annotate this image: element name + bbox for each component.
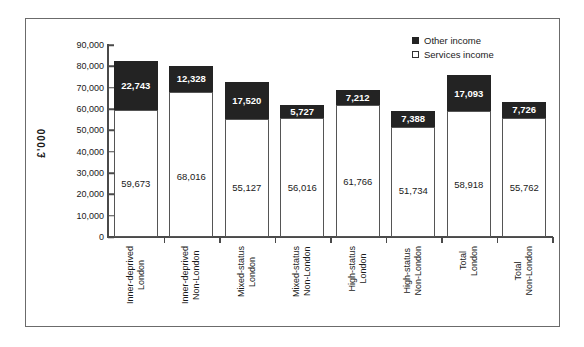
bar-value-label: 22,743 — [121, 80, 150, 91]
x-axis-tick-mark — [219, 237, 221, 243]
x-axis-category-label-text: High-statusNon-London — [402, 246, 424, 296]
legend-marker-filled-square-icon — [412, 37, 419, 44]
y-axis-tick-labels: 90,00080,00070,00060,00050,00040,00030,0… — [58, 45, 104, 237]
bar-value-label: 61,766 — [337, 176, 379, 187]
bar-segment-services-income: 55,127 — [225, 119, 269, 237]
plot-area: 59,67322,74368,01612,32855,12717,52056,0… — [108, 45, 552, 237]
x-axis-tick-mark — [164, 237, 166, 243]
x-axis-tick-mark — [441, 237, 443, 243]
x-axis-category-label-text: Mixed-statusLondon — [236, 246, 258, 297]
x-axis-category-label: High-statusLondon — [330, 246, 386, 332]
bar-segment-other-income: 22,743 — [114, 61, 158, 110]
x-axis-category-label: Mixed-statusNon-London — [275, 246, 331, 332]
x-axis-tick-mark — [275, 237, 277, 243]
x-axis-category-label: Inner-deprivedLondon — [108, 246, 164, 332]
bar-segment-services-income: 68,016 — [169, 92, 213, 237]
x-axis-tick-mark — [386, 237, 388, 243]
bar-column: 58,91817,093 — [447, 75, 491, 237]
x-axis-tick-mark — [330, 237, 332, 243]
y-axis-tick-label: 60,000 — [76, 104, 104, 114]
legend-item-services-income: Services income — [412, 48, 494, 60]
bar-column: 55,7627,726 — [502, 102, 546, 237]
y-axis-tick-label: 90,000 — [76, 40, 104, 50]
legend-label: Other income — [424, 35, 481, 46]
y-axis-tick-mark — [108, 194, 114, 196]
y-axis-tick-label: 40,000 — [76, 147, 104, 157]
bar-column: 56,0165,727 — [280, 105, 324, 237]
y-axis-tick-label: 20,000 — [76, 189, 104, 199]
y-axis-tick-mark — [108, 236, 114, 238]
bar-value-label: 12,328 — [177, 73, 206, 84]
x-axis-category-label-text: TotalLondon — [458, 246, 480, 276]
bar-value-label: 7,726 — [512, 104, 536, 115]
bar-segment-other-income: 5,727 — [280, 105, 324, 117]
legend-label: Services income — [424, 49, 494, 60]
bar-segment-other-income: 7,388 — [391, 111, 435, 127]
y-axis-tick-label: 80,000 — [76, 61, 104, 71]
bar-value-label: 68,016 — [170, 170, 212, 181]
y-axis-tick-mark — [108, 87, 114, 89]
bar-column: 68,01612,328 — [169, 66, 213, 237]
y-axis-tick-mark — [108, 215, 114, 217]
x-axis-tick-mark — [552, 237, 554, 243]
bar-column: 51,7347,388 — [391, 111, 435, 237]
x-axis-category-label-text: TotalNon-London — [513, 246, 535, 296]
x-axis-category-label-text: High-statusLondon — [347, 246, 369, 292]
x-axis-category-label: TotalLondon — [441, 246, 497, 332]
bar-segment-other-income: 7,212 — [336, 90, 380, 105]
bar-value-label: 7,212 — [346, 92, 370, 103]
y-axis-tick-mark — [108, 172, 114, 174]
y-axis-title: £'000 — [30, 95, 52, 190]
bar-value-label: 7,388 — [401, 113, 425, 124]
bar-segment-services-income: 61,766 — [336, 105, 380, 237]
bar-segment-services-income: 58,918 — [447, 111, 491, 237]
x-axis-category-label: High-statusNon-London — [386, 246, 442, 332]
y-axis-title-text: £'000 — [36, 128, 47, 158]
bar-column: 61,7667,212 — [336, 90, 380, 237]
x-axis-category-label: TotalNon-London — [497, 246, 553, 332]
chart-legend: Other income Services income — [409, 33, 497, 63]
bar-segment-other-income: 17,520 — [225, 82, 269, 119]
x-axis-category-label: Inner-deprivedNon-London — [164, 246, 220, 332]
x-axis-category-label-text: Inner-deprivedNon-London — [180, 246, 202, 304]
bar-segment-services-income: 51,734 — [391, 127, 435, 237]
y-axis-tick-label: 30,000 — [76, 168, 104, 178]
y-axis-tick-mark — [108, 108, 114, 110]
y-axis-tick-label: 70,000 — [76, 83, 104, 93]
bar-segment-services-income: 56,016 — [280, 118, 324, 238]
bar-value-label: 56,016 — [281, 181, 323, 192]
bar-value-label: 17,093 — [454, 88, 483, 99]
bar-segment-other-income: 7,726 — [502, 102, 546, 118]
y-axis-tick-label: 0 — [99, 232, 104, 242]
bar-value-label: 5,727 — [290, 106, 314, 117]
bar-value-label: 55,762 — [503, 181, 545, 192]
bar-value-label: 55,127 — [226, 182, 268, 193]
bar-value-label: 51,734 — [392, 185, 434, 196]
bar-segment-services-income: 55,762 — [502, 118, 546, 237]
y-axis-tick-mark — [108, 151, 114, 153]
bar-column: 55,12717,520 — [225, 82, 269, 237]
y-axis-tick-mark — [108, 66, 114, 68]
y-axis-tick-mark — [108, 44, 114, 46]
y-axis-tick-mark — [108, 130, 114, 132]
bar-segment-other-income: 12,328 — [169, 66, 213, 92]
legend-item-other-income: Other income — [412, 34, 494, 46]
bar-value-label: 17,520 — [232, 95, 261, 106]
legend-marker-hollow-square-icon — [412, 51, 419, 58]
y-axis-tick-label: 50,000 — [76, 125, 104, 135]
bar-segment-services-income: 59,673 — [114, 110, 158, 237]
x-axis-tick-mark — [497, 237, 499, 243]
x-axis-category-label-text: Inner-deprivedLondon — [125, 246, 147, 304]
x-axis-category-label: Mixed-statusLondon — [219, 246, 275, 332]
bar-column: 59,67322,743 — [114, 61, 158, 237]
bar-segment-other-income: 17,093 — [447, 75, 491, 111]
bar-value-label: 58,918 — [448, 179, 490, 190]
chart-figure: £'000 90,00080,00070,00060,00050,00040,0… — [0, 0, 584, 347]
x-axis-category-label-text: Mixed-statusNon-London — [291, 246, 313, 297]
bar-value-label: 59,673 — [115, 178, 157, 189]
y-axis-tick-label: 10,000 — [76, 211, 104, 221]
